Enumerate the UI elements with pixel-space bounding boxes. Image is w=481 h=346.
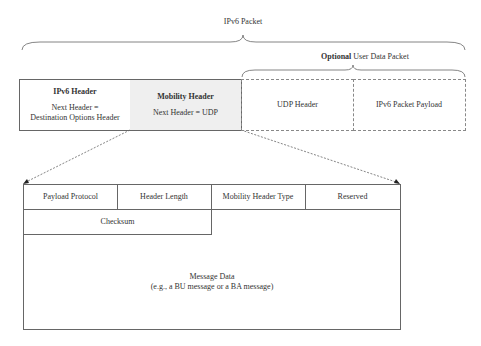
- ipv6-packet-label: IPv6 Packet: [193, 17, 293, 26]
- ipv6-payload-title: IPv6 Packet Payload: [376, 100, 442, 110]
- message-data-example: (e.g., a BU message or a BA message): [151, 282, 274, 292]
- ipv6-header-title: IPv6 Header: [53, 87, 96, 97]
- mobility-header-box: Mobility Header Next Header = UDP: [130, 79, 242, 131]
- field-label: Payload Protocol: [43, 192, 98, 202]
- optional-bold: Optional: [321, 52, 351, 61]
- optional-user-data-label: Optional User Data Packet: [300, 52, 430, 61]
- field-label: Reserved: [338, 192, 368, 202]
- expansion-arrow-left: [24, 130, 130, 183]
- mobility-header-title: Mobility Header: [157, 92, 214, 102]
- field-header-length: Header Length: [117, 184, 212, 210]
- optional-packet-brace: [242, 65, 465, 77]
- field-label: Checksum: [101, 217, 135, 227]
- ipv6-header-detail-1: Next Header =: [51, 103, 98, 113]
- ipv6-packet-brace: [22, 35, 465, 50]
- message-data-title: Message Data: [189, 272, 234, 282]
- ipv6-payload-box: IPv6 Packet Payload: [353, 79, 466, 131]
- expansion-arrow-right: [241, 130, 399, 183]
- user-data-packet-text: User Data Packet: [351, 52, 409, 61]
- field-mobility-header-type: Mobility Header Type: [211, 184, 306, 210]
- mobility-header-detail: Next Header = UDP: [153, 108, 218, 118]
- udp-header-box: UDP Header: [241, 79, 354, 131]
- ipv6-header-box: IPv6 Header Next Header = Destination Op…: [19, 79, 131, 131]
- field-reserved: Reserved: [305, 184, 401, 210]
- field-label: Mobility Header Type: [223, 192, 294, 202]
- field-message-data: Message Data (e.g., a BU message or a BA…: [23, 234, 401, 330]
- field-label: Header Length: [140, 192, 188, 202]
- field-payload-protocol: Payload Protocol: [23, 184, 118, 210]
- udp-header-title: UDP Header: [277, 100, 318, 110]
- ipv6-header-detail-2: Destination Options Header: [30, 113, 119, 123]
- field-checksum: Checksum: [23, 209, 212, 235]
